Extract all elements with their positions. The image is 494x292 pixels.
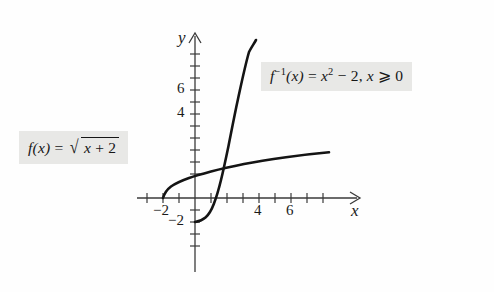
f-inverse-label: f−1(x) = x2 − 2, x ⩾ 0 (261, 62, 412, 91)
greater-equal-sign: ⩾ (378, 67, 391, 84)
comma: , (359, 67, 363, 84)
y-axis (189, 33, 201, 272)
inverse-exponent: −1 (275, 66, 287, 77)
inverse-function-figure: y x −2 4 6 6 4 −2 f(x) = √x + 2 f−1(x) =… (0, 0, 494, 292)
inverse-equals-sign: = (308, 67, 317, 84)
curve-f-sqrt (163, 152, 329, 198)
radicand-variable: x (84, 139, 91, 156)
x-tick-label-4: 4 (254, 202, 262, 219)
y-axis-label: y (178, 28, 186, 48)
sqrt-glyph: √ (70, 136, 79, 158)
f-of-x-label: f(x) = √x + 2 (19, 131, 128, 164)
radicand-constant: 2 (108, 139, 116, 156)
y-tick-label-4: 4 (177, 104, 185, 121)
domain-bound: 0 (395, 67, 403, 84)
inverse-constant: 2 (351, 67, 359, 84)
minus-sign: − (338, 67, 347, 84)
curve-f-inverse-parabola (195, 40, 256, 222)
equals-sign: = (54, 139, 63, 156)
inverse-square-exponent: 2 (328, 66, 333, 77)
domain-variable: x (367, 67, 374, 84)
radicand: x + 2 (81, 137, 119, 157)
x-axis (137, 192, 360, 204)
x-axis-label: x (351, 201, 359, 221)
y-tick-label-6: 6 (177, 80, 185, 97)
f-argument: (x) (33, 139, 51, 156)
x-tick-label-minus2: −2 (153, 202, 169, 219)
radical-sign: √x + 2 (67, 136, 119, 158)
y-tick-label-minus2: −2 (168, 212, 184, 229)
plus-sign: + (95, 139, 104, 156)
x-tick-label-6: 6 (286, 202, 294, 219)
f-inverse-argument: (x) (286, 67, 304, 84)
